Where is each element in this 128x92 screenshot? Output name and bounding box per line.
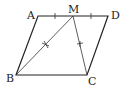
parallelogram-abcd — [16, 16, 108, 75]
label-c: C — [88, 75, 96, 88]
label-d: D — [111, 9, 120, 22]
segment-mb — [16, 16, 73, 75]
label-b: B — [6, 72, 14, 85]
label-m: M — [68, 3, 79, 16]
label-a: A — [26, 9, 36, 22]
geometry-diagram: A M D B C — [0, 0, 128, 92]
